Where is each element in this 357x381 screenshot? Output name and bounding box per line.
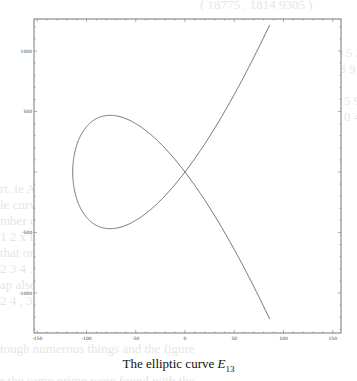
caption-subscript: 13 [225,364,234,374]
x-tick-label: 0 [184,336,187,341]
x-tick-label: -150 [32,336,42,341]
y-tick-label: 1000 [21,49,33,54]
x-tick-label: 100 [279,336,288,341]
y-tick-label: -1000 [19,291,32,296]
y-tick-label: -500 [22,230,32,235]
plot-frame [34,19,341,333]
figure-caption: The elliptic curve E13 [0,356,357,374]
y-tick-label: 500 [23,109,32,114]
elliptic-curve-chart: -150-100-500501001501000500-500-1000 [0,0,357,381]
x-tick-label: -100 [81,336,91,341]
x-tick-label: 150 [328,336,337,341]
caption-text: The elliptic curve [123,356,218,371]
x-tick-label: 50 [231,336,237,341]
x-tick-label: -50 [132,336,139,341]
